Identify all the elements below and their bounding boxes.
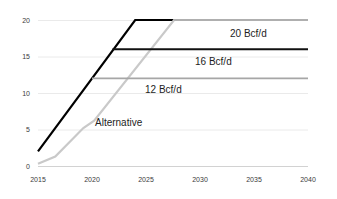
y-axis-tick-20: 20 — [14, 17, 30, 24]
annotation-20-bcfd: 20 Bcf/d — [230, 29, 267, 39]
x-axis-tick-2025: 2025 — [131, 176, 161, 183]
line-chart: 20 15 10 5 0 2015 2020 2025 2030 2035 20… — [0, 0, 337, 199]
annotation-12-bcfd: 12 Bcf/d — [145, 85, 182, 95]
annotation-16-bcfd: 16 Bcf/d — [195, 57, 232, 67]
x-axis-tick-2020: 2020 — [77, 176, 107, 183]
y-axis-tick-10: 10 — [14, 90, 30, 97]
y-axis-tick-15: 15 — [14, 53, 30, 60]
x-axis-tick-2030: 2030 — [185, 176, 215, 183]
annotation-alternative: Alternative — [95, 118, 142, 128]
x-axis-tick-2035: 2035 — [239, 176, 269, 183]
chart-plot-area — [0, 0, 337, 199]
x-axis-tick-2040: 2040 — [293, 176, 323, 183]
x-axis-tick-2015: 2015 — [23, 176, 53, 183]
y-axis-tick-5: 5 — [14, 126, 30, 133]
y-axis-tick-0: 0 — [14, 163, 30, 170]
